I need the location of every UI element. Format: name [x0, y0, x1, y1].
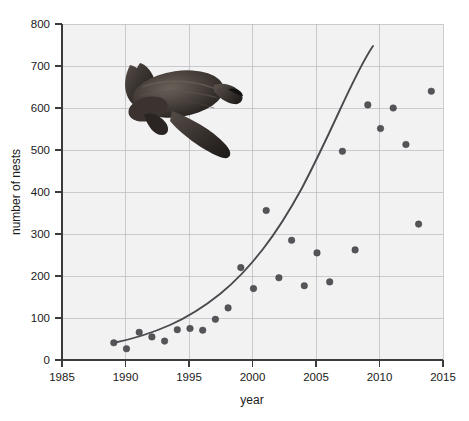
x-tick-label: 2005 — [303, 371, 329, 383]
data-point — [136, 329, 143, 336]
x-tick-label: 1985 — [49, 371, 75, 383]
data-point — [339, 148, 346, 155]
data-point — [415, 221, 422, 228]
x-tick-label: 2010 — [367, 371, 393, 383]
data-point — [174, 326, 181, 333]
data-point — [301, 282, 308, 289]
data-point — [149, 334, 156, 341]
y-tick-label: 600 — [31, 102, 50, 114]
data-point — [225, 305, 232, 312]
nesting-scatter-chart: 0 100 200 300 400 500 600 700 800 1985 1… — [0, 0, 469, 421]
data-point — [161, 338, 168, 345]
data-point — [111, 340, 118, 347]
y-tick-label: 0 — [44, 354, 50, 366]
data-point — [199, 327, 206, 334]
data-point — [288, 237, 295, 244]
data-point — [377, 125, 384, 132]
y-tick-label: 700 — [31, 60, 50, 72]
y-tick-label: 200 — [31, 270, 50, 282]
y-axis-tick-labels: 0 100 200 300 400 500 600 700 800 — [31, 18, 50, 366]
data-point — [390, 105, 397, 112]
data-point — [123, 345, 130, 352]
y-axis-title: number of nests — [9, 149, 23, 235]
data-point — [314, 250, 321, 257]
data-point — [428, 88, 435, 95]
y-tick-label: 800 — [31, 18, 50, 30]
data-point — [187, 325, 194, 332]
data-point — [238, 264, 245, 271]
data-point — [276, 274, 283, 281]
y-tick-label: 300 — [31, 228, 50, 240]
data-point — [403, 141, 410, 148]
x-axis-title: year — [240, 393, 263, 407]
data-point — [250, 285, 257, 292]
x-tick-label: 1995 — [176, 371, 202, 383]
data-point — [326, 279, 333, 286]
x-tick-label: 1990 — [113, 371, 139, 383]
y-tick-label: 500 — [31, 144, 50, 156]
y-tick-label: 400 — [31, 186, 50, 198]
data-point — [263, 207, 270, 214]
data-point — [365, 102, 372, 109]
data-point — [352, 247, 359, 254]
data-point — [212, 316, 219, 323]
x-tick-label: 2015 — [430, 371, 456, 383]
x-tick-label: 2000 — [240, 371, 266, 383]
y-tick-label: 100 — [31, 312, 50, 324]
